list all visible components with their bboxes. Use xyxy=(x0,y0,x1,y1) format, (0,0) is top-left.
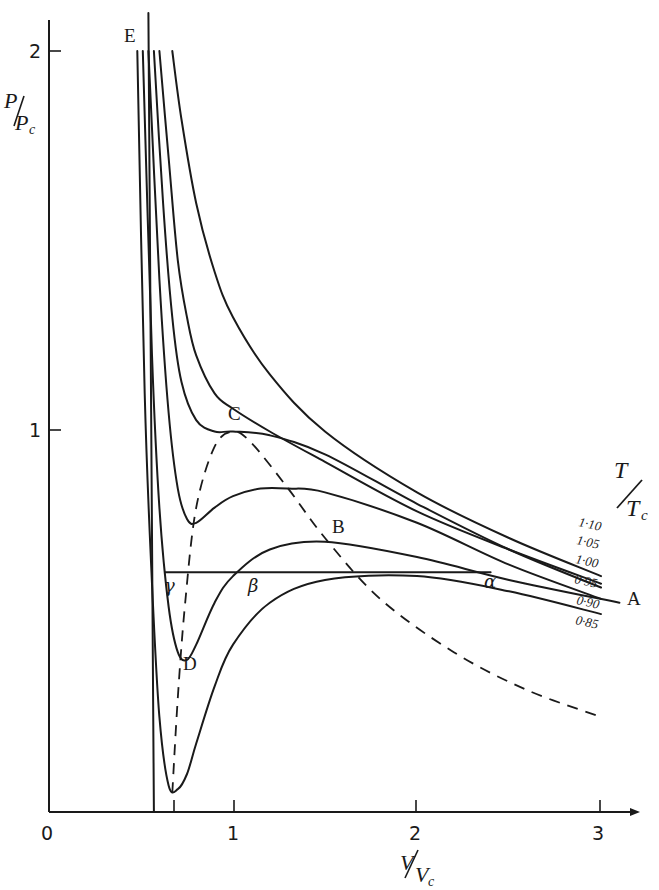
svg-text:T: T xyxy=(614,457,629,483)
x-tick-label-3: 3 xyxy=(592,822,604,844)
point-label-a: A xyxy=(627,588,641,609)
isotherm-curve xyxy=(137,51,601,793)
isotherm-curve xyxy=(159,51,601,584)
y-axis-label: P P c xyxy=(3,88,36,137)
y-tick-label-1: 1 xyxy=(29,419,41,441)
spinodal-dashed-curve xyxy=(172,431,601,793)
x-tick-label-0: 0 xyxy=(41,822,53,844)
svg-text:P: P xyxy=(14,110,28,135)
legend-title: T T c xyxy=(614,457,648,523)
svg-text:c: c xyxy=(641,507,648,523)
curve-label-1-05: 1·05 xyxy=(575,532,601,552)
pv-diagram: 2 1 0 1 2 3 P P c V V c T T c 1·10 1·05 … xyxy=(0,0,659,890)
point-label-e: E xyxy=(124,25,136,46)
curve-label-0-85: 0·85 xyxy=(574,612,600,632)
point-label-c: C xyxy=(228,403,241,424)
isotherm-curve xyxy=(143,51,620,660)
x-axis-arrow-icon xyxy=(630,808,640,816)
point-label-gamma: γ xyxy=(164,575,175,596)
isotherm-curves xyxy=(137,51,619,793)
x-tick-label-2: 2 xyxy=(409,822,421,844)
point-label-beta: β xyxy=(247,575,258,596)
svg-text:c: c xyxy=(29,122,36,137)
x-axis-label: V V c xyxy=(400,850,435,889)
isotherm-curve xyxy=(148,51,601,599)
point-label-alpha: α xyxy=(484,571,496,592)
point-label-d: D xyxy=(183,653,197,674)
svg-text:T: T xyxy=(626,495,641,521)
isotherm-curve xyxy=(154,51,601,588)
isotherm-curve xyxy=(172,51,601,576)
curve-label-1-10: 1·10 xyxy=(577,514,603,534)
point-label-b: B xyxy=(332,516,345,537)
svg-text:c: c xyxy=(428,874,435,889)
y-tick-label-2: 2 xyxy=(29,40,41,62)
x-tick-label-1: 1 xyxy=(227,822,239,844)
